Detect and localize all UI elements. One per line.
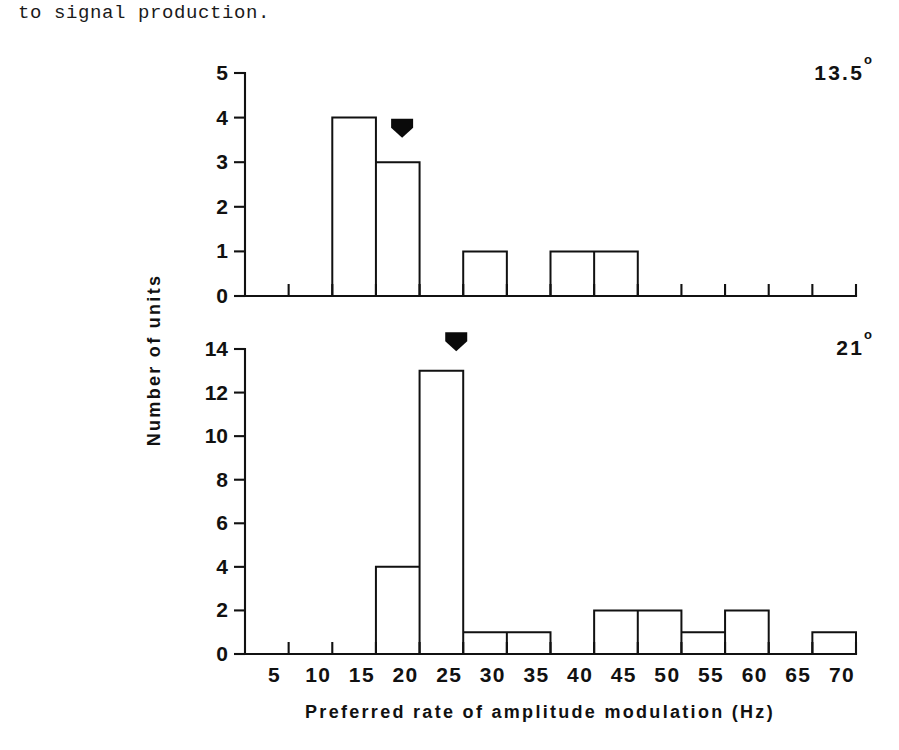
axis-spine [245, 349, 856, 654]
y-tick-labels-bottom: 02468101214 [205, 337, 229, 665]
y-tick-label: 6 [216, 511, 228, 534]
x-tick-label: 70 [829, 663, 855, 686]
x-axis-title: Preferred rate of amplitude modulation (… [305, 702, 775, 722]
x-tick-label: 30 [480, 663, 506, 686]
histogram-bar-group [332, 118, 419, 296]
x-tick-label: 15 [349, 663, 375, 686]
x-tick-label: 10 [305, 663, 331, 686]
axes-bottom [245, 349, 856, 654]
bars-top [332, 118, 638, 296]
x-ticks-top [289, 284, 856, 296]
x-tick-label: 55 [698, 663, 724, 686]
y-tick-label: 2 [216, 598, 228, 621]
y-tick-label: 2 [216, 195, 228, 218]
y-tick-label: 0 [216, 642, 228, 665]
y-ticks-bottom [234, 349, 245, 654]
x-tick-labels-bottom: 510152025303540455055606570 [268, 663, 855, 686]
y-tick-label: 10 [205, 424, 228, 447]
x-tick-label: 5 [268, 663, 281, 686]
x-tick-label: 45 [611, 663, 637, 686]
histogram-bar-group [376, 371, 551, 654]
y-tick-label: 1 [216, 239, 228, 262]
x-tick-label: 50 [654, 663, 680, 686]
y-ticks-top [234, 73, 245, 296]
y-tick-label: 4 [216, 555, 228, 578]
panel-label-value: 21 [836, 336, 864, 359]
down-arrow-icon [391, 119, 413, 138]
y-tick-label: 0 [216, 284, 228, 307]
chart-panel-bottom: 02468101214 510152025303540455055606570 … [205, 327, 872, 687]
panel-label-top: 13.5o [814, 52, 872, 85]
y-tick-label: 8 [216, 468, 228, 491]
y-tick-label: 5 [216, 61, 228, 84]
figure-canvas: 012345 13.5o 02468101214 510152025303540… [0, 0, 899, 750]
y-tick-label: 12 [205, 381, 228, 404]
bars-bottom [376, 371, 856, 654]
y-tick-labels-top: 012345 [216, 61, 228, 307]
histogram-bar-group [812, 632, 856, 654]
figure-histograms: 012345 13.5o 02468101214 510152025303540… [0, 0, 899, 750]
y-tick-label: 4 [216, 106, 228, 129]
degree-icon: o [864, 52, 872, 67]
x-tick-label: 60 [742, 663, 768, 686]
x-tick-label: 65 [785, 663, 811, 686]
y-axis-title: Number of units [144, 274, 164, 447]
y-tick-label: 14 [205, 337, 229, 360]
histogram-bar-group [551, 251, 638, 296]
annotation-arrows-top [391, 119, 413, 138]
annotation-arrows-bottom [445, 332, 467, 351]
histogram-bar-group [463, 251, 507, 296]
x-tick-label: 25 [436, 663, 462, 686]
x-ticks-bottom [289, 642, 856, 654]
panel-label-value: 13.5 [814, 61, 864, 84]
x-tick-label: 20 [392, 663, 418, 686]
histogram-bar-group [594, 610, 769, 654]
panel-label-bottom: 21o [836, 327, 872, 360]
x-tick-label: 35 [523, 663, 549, 686]
chart-panel-top: 012345 13.5o [216, 52, 872, 308]
x-tick-label: 40 [567, 663, 593, 686]
y-tick-label: 3 [216, 150, 228, 173]
degree-icon: o [864, 327, 872, 342]
down-arrow-icon [445, 332, 467, 351]
